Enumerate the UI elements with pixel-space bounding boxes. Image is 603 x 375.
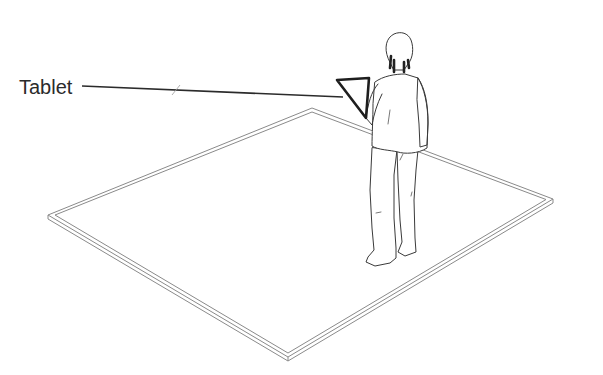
right-leg	[397, 150, 418, 256]
leader-line	[82, 85, 343, 97]
tablet-label: Tablet	[19, 75, 72, 99]
diagram-canvas: Tablet	[0, 0, 603, 375]
tablet-icon	[337, 78, 369, 118]
person-figure	[366, 33, 428, 266]
floor-area	[48, 108, 553, 361]
left-leg	[366, 148, 397, 266]
diagram-drawing	[0, 0, 603, 375]
